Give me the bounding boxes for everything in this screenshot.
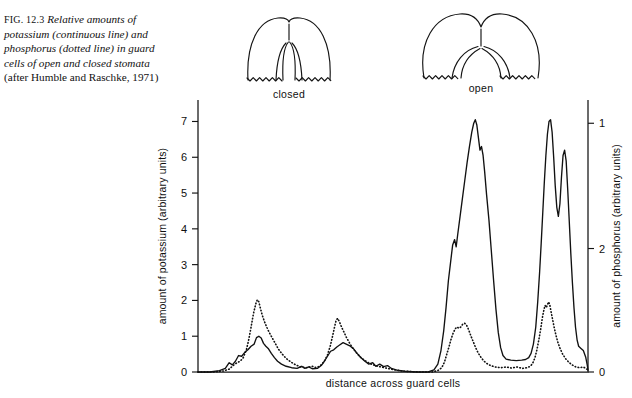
curve-potassium bbox=[198, 120, 588, 372]
open-stoma-label: open bbox=[469, 82, 494, 94]
y2-tick-label: 1 bbox=[599, 117, 605, 129]
y2-tick-label: 0 bbox=[599, 366, 605, 378]
y-tick-label: 7 bbox=[181, 115, 187, 127]
figure-svg: closed open 01234567 021 amount of potas… bbox=[0, 0, 632, 398]
y-axis-ticks: 01234567 bbox=[181, 115, 198, 378]
y2-axis-ticks: 021 bbox=[588, 117, 605, 378]
open-stoma-diagram: open bbox=[423, 14, 540, 94]
y-tick-label: 5 bbox=[181, 187, 187, 199]
y-tick-label: 1 bbox=[181, 330, 187, 342]
plot-area: closed open 01234567 021 amount of potas… bbox=[0, 0, 632, 398]
y-tick-label: 3 bbox=[181, 259, 187, 271]
y2-tick-label: 2 bbox=[599, 243, 605, 255]
y-tick-label: 4 bbox=[181, 223, 187, 235]
closed-stoma-label: closed bbox=[273, 88, 305, 100]
y-tick-label: 2 bbox=[181, 294, 187, 306]
plot-frame bbox=[198, 100, 588, 372]
data-curves bbox=[198, 120, 588, 372]
y2-axis-title: amount of phosphorus (arbitrary units) bbox=[610, 144, 622, 328]
y-tick-label: 0 bbox=[181, 366, 187, 378]
y-tick-label: 6 bbox=[181, 151, 187, 163]
curve-phosphorus bbox=[198, 300, 588, 372]
figure-root: FIG. 12.3 Relative amounts of potassium … bbox=[0, 0, 632, 398]
y-axis-title: amount of potassium (arbitrary units) bbox=[156, 148, 168, 325]
x-axis-title: distance across guard cells bbox=[326, 377, 461, 389]
closed-stoma-diagram: closed bbox=[247, 18, 331, 100]
